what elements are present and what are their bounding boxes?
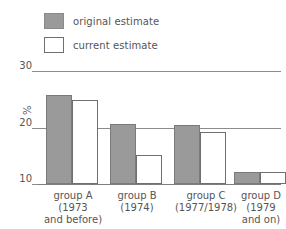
bar-group-a-original [46,95,72,184]
legend-label-current: current estimate [73,40,158,51]
bar-group-b-current [136,155,162,184]
plot-area [38,65,281,189]
legend-item-original: original estimate [44,10,159,32]
bar-group-c-current [200,132,226,184]
chart-legend: original estimate current estimate [44,10,159,58]
y-axis-label: % [22,105,33,115]
bar-group-a-current [72,100,98,184]
x-label-group-d: group D (1979 and on) [222,190,286,226]
bar-group-d-original [234,172,260,184]
legend-swatch-current-icon [44,37,64,53]
legend-swatch-original-icon [44,13,64,29]
x-axis-labels: group A (1973 and before) group B (1974)… [38,190,281,229]
legend-label-original: original estimate [73,16,159,27]
bar-group-d-current [260,172,286,184]
bar-group-b-original [110,124,136,184]
legend-item-current: current estimate [44,34,159,56]
bar-chart: original estimate current estimate % 30 … [0,0,286,229]
bars-layer [38,65,281,184]
bar-group-c-original [174,125,200,184]
y-tick-label-10: 10 [10,173,32,184]
y-tick-label-30: 30 [10,60,32,71]
axis-baseline-10 [38,184,281,185]
y-tick-label-20: 20 [10,117,32,128]
